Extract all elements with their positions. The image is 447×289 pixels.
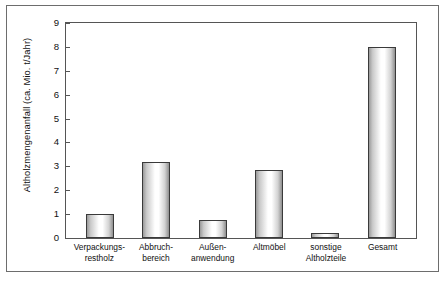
x-axis-category-labels: Verpackungs-restholzAbbruch-bereichAußen…: [65, 242, 417, 263]
x-axis-category-label: Außen-anwendung: [184, 242, 240, 263]
y-axis-tick-label: 6: [19, 90, 66, 100]
x-axis-category-label-line: Altmöbel: [241, 242, 297, 253]
x-axis-category-label-line: Abbruch-: [128, 242, 184, 253]
x-axis-category-label-line: Altholzteile: [298, 253, 354, 264]
x-axis-category-label: sonstigeAltholzteile: [298, 242, 354, 263]
y-axis-tick-label: 9: [19, 18, 66, 28]
bar-slot: [128, 23, 184, 238]
bar: [255, 170, 283, 238]
y-axis-tick-label: 3: [19, 162, 66, 172]
bar-slot: [354, 23, 410, 238]
x-axis-category-label: Gesamt: [354, 242, 410, 263]
bar: [86, 214, 114, 238]
y-axis-tick-label: 0: [19, 233, 66, 243]
bar: [199, 220, 227, 238]
x-axis-category-label: Verpackungs-restholz: [71, 242, 127, 263]
plot-area: 0123456789: [65, 22, 417, 239]
y-axis-tick-label: 4: [19, 138, 66, 148]
bar-slot: [297, 23, 353, 238]
y-axis-tick-label: 5: [19, 114, 66, 124]
x-axis-category-label-line: sonstige: [298, 242, 354, 253]
y-axis-tick-label: 7: [19, 66, 66, 76]
y-axis-tick-label: 2: [19, 185, 66, 195]
x-axis-category-label: Abbruch-bereich: [128, 242, 184, 263]
x-axis-category-label-line: anwendung: [184, 253, 240, 264]
bar: [142, 162, 170, 238]
x-axis-category-label-line: Außen-: [184, 242, 240, 253]
x-axis-category-label-line: Gesamt: [354, 242, 410, 253]
x-axis-category-label-line: bereich: [128, 253, 184, 264]
x-axis-category-label-line: restholz: [71, 253, 127, 264]
y-axis-tick-label: 1: [19, 209, 66, 219]
bar-slot: [241, 23, 297, 238]
bar-slot: [185, 23, 241, 238]
bar: [368, 47, 396, 238]
bar: [311, 233, 339, 238]
figure-frame: Altholzmengenanfall (ca. Mio. t/Jahr) 01…: [6, 5, 439, 272]
x-axis-category-label-line: Verpackungs-: [71, 242, 127, 253]
bar-series: [66, 23, 416, 238]
bar-slot: [72, 23, 128, 238]
x-axis-category-label: Altmöbel: [241, 242, 297, 263]
y-axis-tick-label: 8: [19, 42, 66, 52]
